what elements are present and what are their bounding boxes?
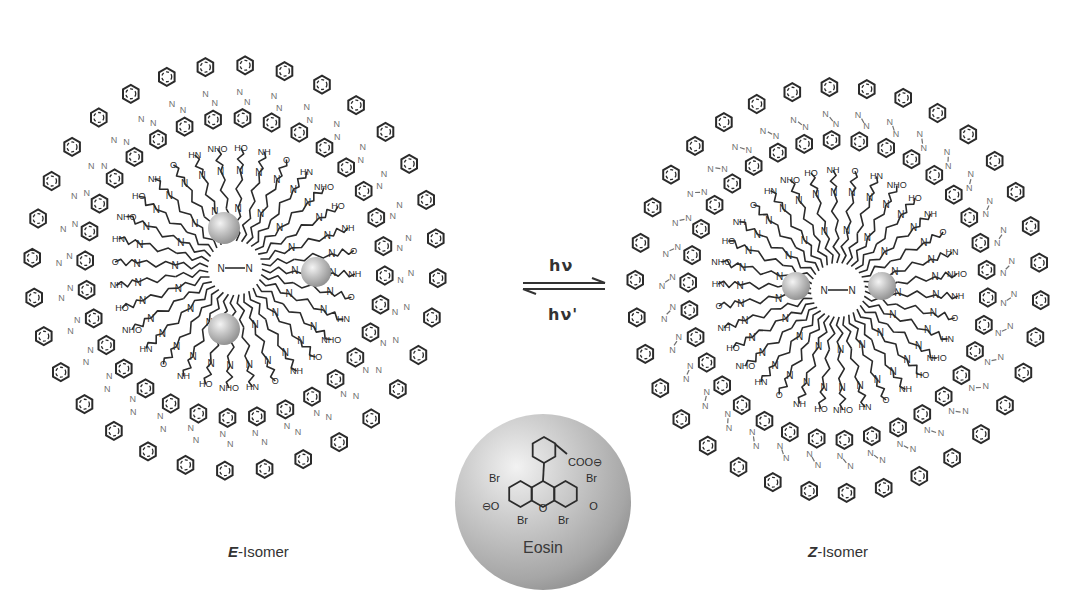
azo-n: N bbox=[397, 243, 404, 253]
amine-n: N bbox=[796, 331, 803, 342]
azo-n: N bbox=[687, 361, 694, 371]
amide-label: HN bbox=[870, 171, 883, 181]
benzene-ring-icon bbox=[205, 111, 221, 129]
benzene-ring-icon bbox=[687, 137, 703, 155]
benzene-ring-icon bbox=[629, 308, 645, 326]
amide-label: NHO bbox=[117, 212, 137, 222]
azo-n: N bbox=[340, 389, 347, 399]
azo-n: N bbox=[1007, 321, 1014, 331]
amide-label: NHO bbox=[208, 144, 228, 154]
benzene-ring-icon bbox=[976, 316, 992, 334]
azo-n: N bbox=[306, 115, 313, 125]
benzene-ring-icon bbox=[890, 418, 906, 436]
amine-n: N bbox=[171, 260, 178, 271]
dendron-branch: NNNHONN bbox=[833, 317, 854, 502]
amide-label: O bbox=[350, 246, 357, 256]
benzene-ring-icon bbox=[348, 349, 364, 367]
amide-label: O bbox=[348, 292, 355, 302]
azo-n: N bbox=[381, 169, 388, 179]
benzene-ring-icon bbox=[707, 196, 723, 214]
benzene-ring-icon bbox=[725, 175, 741, 193]
benzene-ring-icon bbox=[237, 56, 253, 74]
benzene-ring-icon bbox=[633, 234, 649, 252]
benzene-ring-icon bbox=[123, 85, 139, 103]
azo-n: N bbox=[244, 97, 251, 107]
benzene-ring-icon bbox=[680, 274, 696, 292]
azo-n: N bbox=[169, 99, 176, 109]
amide-label: HO bbox=[234, 143, 248, 153]
azo-n: N bbox=[683, 374, 690, 384]
benzene-ring-icon bbox=[714, 376, 730, 394]
azo-n: N bbox=[219, 429, 226, 439]
benzene-ring-icon bbox=[915, 405, 931, 423]
azo-n: N bbox=[408, 268, 415, 278]
azo-n: N bbox=[984, 357, 991, 367]
amide-label: O bbox=[160, 359, 167, 369]
azo-n: N bbox=[749, 427, 756, 437]
azo-n: N bbox=[389, 211, 396, 221]
amide-label: NHO bbox=[833, 405, 853, 415]
amine-n: N bbox=[252, 319, 259, 330]
azo-n: N bbox=[252, 428, 259, 438]
azo-n: N bbox=[56, 258, 63, 268]
benzene-ring-icon bbox=[257, 460, 273, 478]
reverse-light-label: hν' bbox=[548, 305, 578, 324]
benzene-ring-icon bbox=[973, 234, 989, 252]
azo-n: N bbox=[334, 119, 341, 129]
e-isomer-suffix: -Isomer bbox=[238, 543, 289, 560]
azo-n: N bbox=[180, 105, 187, 115]
amide-label: NH bbox=[793, 399, 806, 409]
azo-n: N bbox=[969, 383, 976, 393]
benzene-ring-icon bbox=[411, 346, 427, 364]
amine-n: N bbox=[257, 208, 264, 219]
z-isomer-suffix: -Isomer bbox=[817, 543, 868, 560]
amide-label: NH bbox=[290, 366, 303, 376]
amide-label: NHO bbox=[219, 383, 239, 393]
amide-label: NH bbox=[348, 269, 361, 279]
benzene-ring-icon bbox=[107, 170, 123, 188]
amide-label: NHO bbox=[927, 353, 947, 363]
azo-n: N bbox=[202, 89, 209, 99]
benzene-ring-icon bbox=[716, 113, 732, 131]
benzene-ring-icon bbox=[895, 89, 911, 107]
amide-label: O bbox=[852, 166, 859, 176]
azo-n: N bbox=[1008, 256, 1015, 266]
azo-n: N bbox=[392, 307, 399, 317]
azo-n: N bbox=[74, 315, 81, 325]
benzene-ring-icon bbox=[328, 370, 344, 388]
azo-n: N bbox=[363, 365, 370, 375]
azo-n: N bbox=[806, 449, 813, 459]
benzene-ring-icon bbox=[356, 182, 372, 200]
azo-n: N bbox=[376, 181, 383, 191]
benzene-ring-icon bbox=[946, 186, 962, 204]
benzene-ring-icon bbox=[936, 388, 952, 406]
azo-n: N bbox=[676, 332, 683, 342]
benzene-ring-icon bbox=[801, 482, 817, 500]
amide-label: HO bbox=[132, 191, 146, 201]
azo-n: N bbox=[1000, 268, 1007, 278]
azo-n: N bbox=[1011, 289, 1018, 299]
benzene-ring-icon bbox=[904, 150, 920, 168]
amine-n: N bbox=[782, 313, 789, 324]
azo-n: N bbox=[326, 412, 333, 422]
amine-n: N bbox=[276, 222, 283, 233]
azo-n: N bbox=[746, 145, 753, 155]
azo-n: N bbox=[966, 183, 973, 193]
azo-n: N bbox=[887, 117, 894, 127]
amide-label: NHO bbox=[122, 325, 142, 335]
amide-label: HN bbox=[246, 382, 259, 392]
azo-n: N bbox=[938, 428, 945, 438]
forward-light-label: hν bbox=[549, 256, 573, 275]
azo-n: N bbox=[392, 335, 399, 345]
benzene-ring-icon bbox=[962, 209, 978, 227]
benzene-ring-icon bbox=[217, 462, 233, 480]
azo-n: N bbox=[674, 242, 681, 252]
azo-n: N bbox=[106, 371, 113, 381]
benzene-ring-icon bbox=[699, 354, 715, 372]
amine-n: N bbox=[881, 246, 888, 257]
eosin-label: Eosin bbox=[523, 539, 563, 556]
azo-n: N bbox=[150, 118, 157, 128]
benzene-ring-icon bbox=[127, 148, 143, 166]
amine-n: N bbox=[820, 285, 827, 296]
guest-sphere-icon bbox=[208, 313, 240, 345]
